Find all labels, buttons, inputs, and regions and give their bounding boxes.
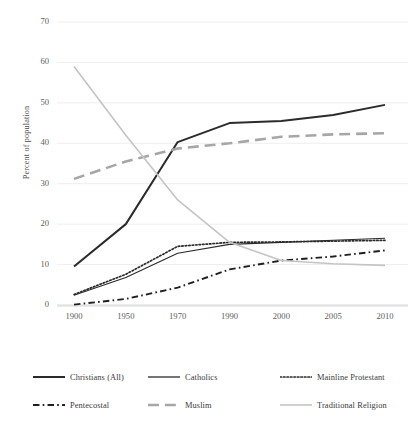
y-tick-label: 70 bbox=[23, 16, 49, 26]
y-tick-label: 0 bbox=[23, 299, 49, 309]
series-line-catholics bbox=[74, 238, 385, 295]
x-tick-label: 2010 bbox=[358, 311, 412, 321]
legend-swatch-line-icon bbox=[148, 400, 180, 410]
legend-label: Muslim bbox=[185, 401, 212, 410]
x-tick-label: 1970 bbox=[151, 311, 205, 321]
legend-label: Catholics bbox=[185, 373, 218, 382]
y-tick-label: 20 bbox=[23, 218, 49, 228]
legend-item-traditional-religion[interactable]: Traditional Religion bbox=[280, 392, 420, 418]
legend-label: Traditional Religion bbox=[317, 401, 387, 410]
legend-item-christians-all[interactable]: Christians (All) bbox=[0, 364, 140, 390]
legend-row-2: Pentecostal Muslim Traditional Religion bbox=[0, 392, 420, 418]
x-tick-label: 1900 bbox=[47, 311, 101, 321]
x-tick-label: 2005 bbox=[306, 311, 360, 321]
series-line-pentecostal bbox=[74, 250, 385, 304]
series-line-traditional-religion bbox=[74, 66, 385, 265]
legend-item-mainline-protestant[interactable]: Mainline Protestant bbox=[280, 364, 420, 390]
legend-swatch-line-icon bbox=[33, 400, 65, 410]
legend-item-pentecostal[interactable]: Pentecostal bbox=[0, 392, 140, 418]
line-chart-svg bbox=[0, 0, 420, 340]
x-tick-label: 2000 bbox=[254, 311, 308, 321]
legend-label: Pentecostal bbox=[70, 401, 109, 410]
legend-item-muslim[interactable]: Muslim bbox=[140, 392, 280, 418]
legend-row-1: Christians (All) Catholics Mainline Prot… bbox=[0, 364, 420, 390]
legend-swatch-line-icon bbox=[148, 372, 180, 382]
plot-area: Percent of population 010203040506070 19… bbox=[0, 0, 420, 340]
y-tick-label: 10 bbox=[23, 259, 49, 269]
y-tick-label: 30 bbox=[23, 178, 49, 188]
legend-swatch-line-icon bbox=[33, 372, 65, 382]
x-tick-label: 1990 bbox=[203, 311, 257, 321]
y-tick-label: 40 bbox=[23, 137, 49, 147]
chart-container: Percent of population 010203040506070 19… bbox=[0, 0, 420, 423]
legend-item-catholics[interactable]: Catholics bbox=[140, 364, 280, 390]
y-tick-label: 50 bbox=[23, 97, 49, 107]
legend-swatch-line-icon bbox=[280, 372, 312, 382]
gridlines bbox=[57, 22, 408, 305]
series-line-mainline-protestant bbox=[74, 240, 385, 294]
y-tick-label: 60 bbox=[23, 56, 49, 66]
legend-swatch-line-icon bbox=[280, 400, 312, 410]
x-tick-label: 1950 bbox=[99, 311, 153, 321]
legend-label: Christians (All) bbox=[70, 373, 124, 382]
legend-label: Mainline Protestant bbox=[317, 373, 385, 382]
series-lines bbox=[74, 66, 385, 304]
series-line-muslim bbox=[74, 133, 385, 179]
chart-legend: Christians (All) Catholics Mainline Prot… bbox=[0, 358, 420, 420]
